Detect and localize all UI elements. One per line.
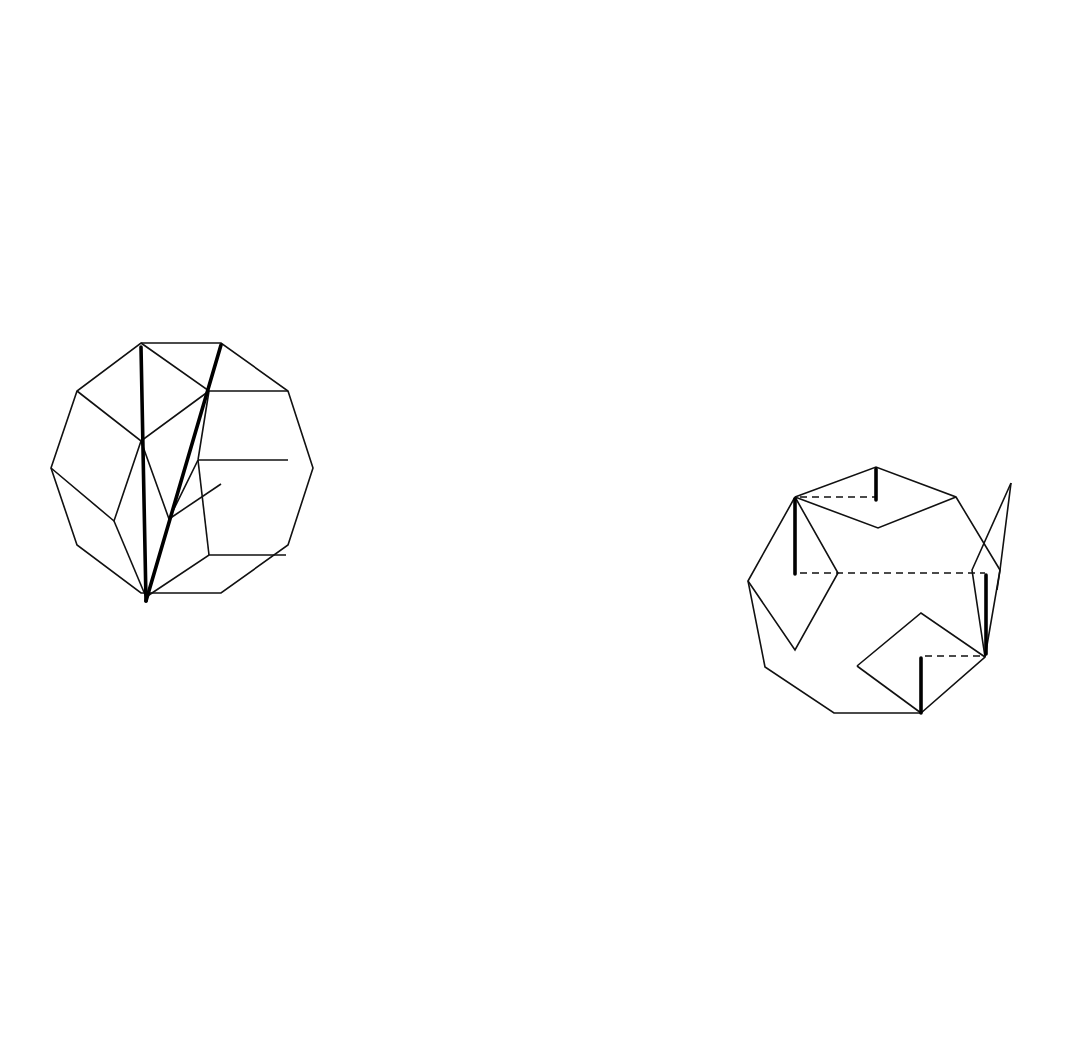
odd-n-inset-nonagon <box>0 0 1011 713</box>
odd-inset-inner-lines <box>972 483 1011 657</box>
even-inset-bold-diagonal <box>146 345 221 601</box>
even-inset-rhomb-lines <box>198 460 209 555</box>
rolling-polygon-figure <box>0 0 1081 1059</box>
even-n-inset-decagon <box>0 0 313 601</box>
odd-inset-inner-lines <box>857 666 921 713</box>
odd-inset-outline <box>748 467 1000 713</box>
even-inset-bold-vertical <box>141 347 146 601</box>
